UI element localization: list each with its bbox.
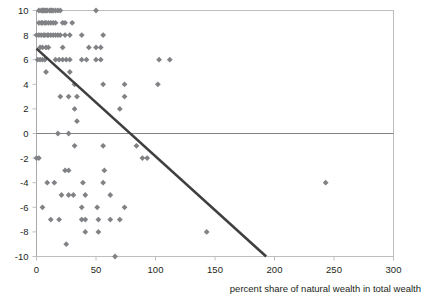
x-tick-label: 50 bbox=[91, 264, 102, 275]
x-axis-title: percent share of natural wealth in total… bbox=[230, 283, 421, 294]
y-tick-label: 8 bbox=[23, 30, 28, 41]
y-tick-label: 2 bbox=[23, 103, 28, 114]
x-tick-label: 250 bbox=[326, 264, 342, 275]
x-tick-label: 0 bbox=[34, 264, 39, 275]
y-tick-label: 10 bbox=[18, 5, 29, 16]
x-tick-label: 150 bbox=[207, 264, 223, 275]
y-tick-label: 0 bbox=[23, 128, 28, 139]
y-tick-label: -2 bbox=[20, 153, 28, 164]
y-tick-label: 6 bbox=[23, 54, 28, 65]
y-tick-label: 4 bbox=[23, 79, 28, 90]
y-tick-label: -10 bbox=[15, 251, 29, 262]
x-tick-label: 300 bbox=[386, 264, 402, 275]
y-tick-label: -4 bbox=[20, 177, 28, 188]
y-tick-label: -8 bbox=[20, 226, 28, 237]
y-tick-label: -6 bbox=[20, 202, 28, 213]
chart-background bbox=[0, 0, 427, 300]
chart-canvas: 050100150200250300 -10-8-6-4-20246810 pe… bbox=[0, 0, 427, 300]
x-tick-label: 200 bbox=[267, 264, 283, 275]
scatter-chart: 050100150200250300 -10-8-6-4-20246810 pe… bbox=[0, 0, 427, 300]
x-tick-label: 100 bbox=[148, 264, 164, 275]
